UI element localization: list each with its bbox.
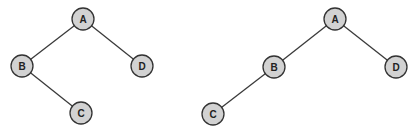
node-a: A xyxy=(324,8,346,30)
node-label: B xyxy=(270,62,277,73)
node-d: D xyxy=(131,55,153,77)
node-b: B xyxy=(11,55,33,77)
node-c: C xyxy=(202,103,224,125)
node-label: C xyxy=(209,109,216,120)
node-label: D xyxy=(392,62,399,73)
left-tree: A B C D xyxy=(11,8,153,124)
node-a: A xyxy=(72,8,94,30)
node-b: B xyxy=(263,56,285,78)
right-tree: A B C D xyxy=(202,8,407,125)
node-label: A xyxy=(331,14,338,25)
node-label: C xyxy=(77,108,84,119)
node-label: B xyxy=(18,61,25,72)
node-c: C xyxy=(70,102,92,124)
node-d: D xyxy=(385,56,407,78)
node-label: A xyxy=(79,14,86,25)
node-label: D xyxy=(138,61,145,72)
tree-diagram-canvas: A B C D A B C xyxy=(0,0,418,135)
